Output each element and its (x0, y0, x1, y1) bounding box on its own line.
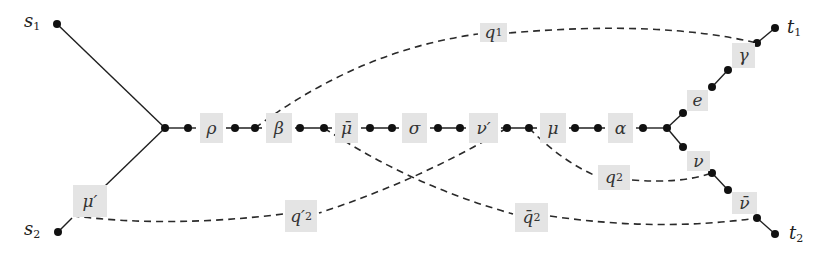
edge-label-gamma: γ (732, 43, 755, 68)
demand-curve-q2-bar-right (550, 216, 757, 225)
node (231, 124, 239, 132)
edge-label-nu-bar: ν̄ (732, 192, 757, 214)
edge-label-alpha: α (608, 113, 633, 143)
edge-s1-junction (57, 24, 165, 128)
terminal-label-s2: s2 (24, 220, 40, 240)
node (724, 66, 732, 74)
node-t1 (771, 24, 779, 32)
node-s2 (54, 228, 62, 236)
node (296, 124, 304, 132)
node (639, 124, 647, 132)
node (251, 124, 259, 132)
edge-label-beta: β (266, 113, 292, 143)
edge-label-nu: ν (687, 151, 710, 171)
demand-label-q2: q2 (598, 165, 630, 190)
node (571, 124, 579, 132)
node (708, 83, 716, 91)
node (594, 124, 602, 132)
node (753, 214, 761, 222)
terminal-label-t2: t2 (789, 224, 803, 244)
node (679, 109, 687, 117)
node (503, 124, 511, 132)
terminal-label-s1: s1 (24, 12, 40, 32)
edge-label-mu: μ (540, 113, 566, 143)
edge-label-sigma: σ (402, 113, 427, 143)
demand-curve-q2-right (632, 173, 712, 181)
node-junction-right (663, 124, 671, 132)
node (724, 186, 732, 194)
node-t2 (771, 230, 779, 238)
demand-label-q2-prime: q′2 (285, 200, 317, 232)
node-s1 (53, 20, 61, 28)
edge-label-rho: ρ (200, 113, 223, 143)
node (184, 124, 192, 132)
node (456, 124, 464, 132)
edge-label-mu-bar: μ̄ (335, 113, 358, 143)
node (366, 124, 374, 132)
terminal-label-t1: t1 (787, 18, 801, 38)
node-junction-left (161, 124, 169, 132)
node (434, 124, 442, 132)
demand-label-q1: q1 (480, 23, 507, 42)
edge-label-mu-prime: μ′ (73, 185, 107, 217)
demand-label-q2-bar: q̄2 (515, 203, 548, 232)
node (388, 124, 396, 132)
node (525, 124, 533, 132)
edge-label-e: e (687, 90, 708, 111)
tree-demand-diagram: s1 s2 t1 t2 ρ β μ̄ σ ν′ μ α e γ ν ν̄ μ′ … (0, 0, 838, 255)
demand-curve-q1-right (509, 28, 757, 43)
edge-label-nu-prime: ν′ (469, 113, 498, 143)
edge-junction-mu-prime (105, 128, 165, 186)
node (320, 124, 328, 132)
node (679, 143, 687, 151)
